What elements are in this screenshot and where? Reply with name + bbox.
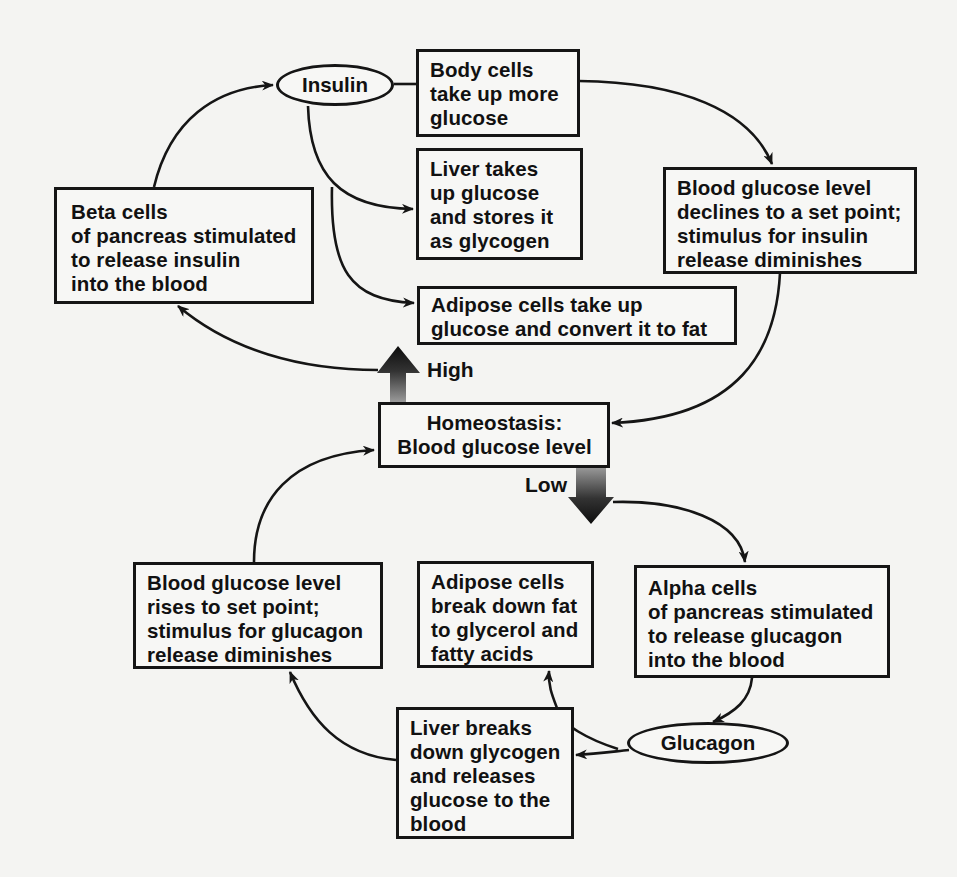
- glucagon-label: Glucagon: [661, 731, 756, 755]
- blood-glucose-declines-box: Blood glucose level declines to a set po…: [663, 167, 917, 274]
- high-arrow-icon: [377, 346, 420, 402]
- liver-breaks-down-glycogen-box: Liver breaks down glycogen and releases …: [396, 707, 574, 839]
- arrow-high-to-beta-cells: [178, 306, 378, 370]
- arrow-alpha-to-glucagon: [713, 678, 752, 722]
- arrow-liver-to-rises: [290, 672, 396, 760]
- insulin-hormone-node: Insulin: [276, 64, 394, 106]
- body-cells-box: Body cells take up more glucose: [416, 49, 580, 137]
- low-arrow-icon: [568, 467, 614, 524]
- alpha-cells-box: Alpha cells of pancreas stimulated to re…: [634, 565, 890, 678]
- adipose-cells-break-down-box: Adipose cells break down fat to glycerol…: [417, 561, 594, 668]
- high-label: High: [427, 358, 474, 382]
- glucose-homeostasis-diagram: Insulin Body cells take up more glucose …: [0, 0, 957, 877]
- arrow-glucagon-to-liver: [576, 750, 629, 755]
- low-label: Low: [525, 473, 567, 497]
- adipose-cells-take-up-box: Adipose cells take up glucose and conver…: [417, 286, 737, 345]
- blood-glucose-rises-box: Blood glucose level rises to set point; …: [133, 562, 383, 669]
- arrow-body-cells-to-declines: [579, 81, 772, 164]
- arrow-low-to-alpha-cells: [613, 502, 745, 562]
- arrow-beta-to-insulin: [154, 85, 273, 187]
- glucagon-hormone-node: Glucagon: [627, 722, 789, 764]
- insulin-label: Insulin: [302, 73, 368, 97]
- homeostasis-center-box: Homeostasis: Blood glucose level: [378, 402, 610, 468]
- arrow-insulin-to-liver: [308, 106, 413, 209]
- liver-takes-up-glucose-box: Liver takes up glucose and stores it as …: [416, 148, 583, 260]
- beta-cells-box: Beta cells of pancreas stimulated to rel…: [54, 187, 314, 304]
- arrow-rises-to-homeostasis: [254, 450, 374, 562]
